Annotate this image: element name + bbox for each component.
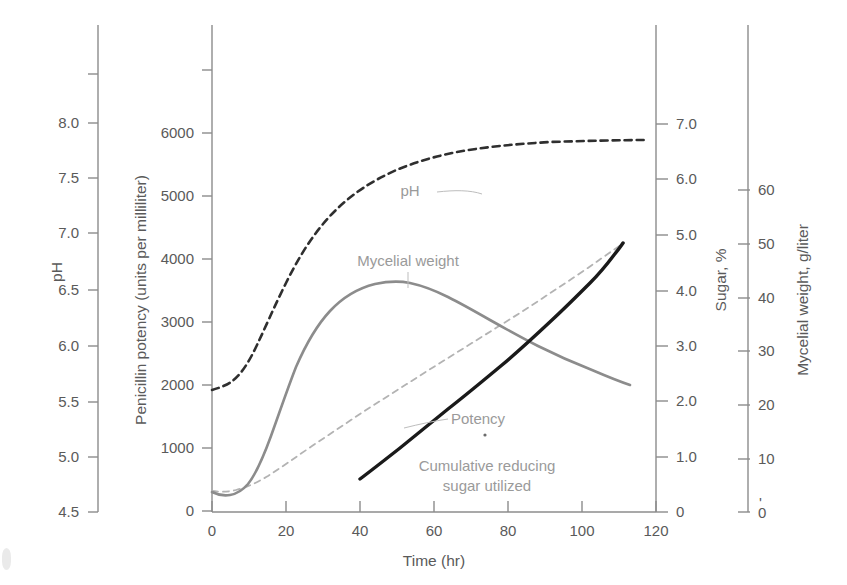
ph-axis-title: pH: [48, 262, 65, 282]
potency-axis: 6000 5000 4000 3000 2000 1000 0 Penicill…: [132, 25, 212, 519]
ph-curve-label: pH: [400, 182, 419, 199]
sugar-curve-label-line1: Cumulative reducing: [419, 457, 556, 474]
ph-axis: 8.0 7.5 7.0 6.5 6.0 5.5 5.0 4.5 pH: [48, 25, 98, 520]
ph-label-7.0: 7.0: [58, 224, 79, 241]
potency-curve: [360, 243, 623, 479]
x-label-60: 60: [426, 522, 443, 539]
x-label-100: 100: [569, 522, 594, 539]
x-axis-title: Time (hr): [403, 552, 465, 569]
ph-label-6.0: 6.0: [58, 337, 79, 354]
mycelial-label-40: 40: [758, 289, 775, 306]
mycelial-label-50: 50: [758, 235, 775, 252]
sugar-curve: [212, 243, 624, 492]
sugar-curve-label-line2: sugar utilized: [443, 477, 531, 494]
ph-label-4.5: 4.5: [58, 503, 79, 520]
mycelial-curve-label: Mycelial weight: [357, 252, 460, 269]
sugar-label-3.0: 3.0: [676, 337, 697, 354]
potency-label-dot: [483, 433, 486, 436]
mycelial-label-20: 20: [758, 396, 775, 413]
potency-label-2000: 2000: [161, 376, 194, 393]
ph-label-5.0: 5.0: [58, 448, 79, 465]
ph-label-7.5: 7.5: [58, 169, 79, 186]
sugar-label-6.0: 6.0: [676, 170, 697, 187]
potency-label-1000: 1000: [161, 439, 194, 456]
potency-label-3000: 3000: [161, 313, 194, 330]
x-label-40: 40: [352, 522, 369, 539]
ph-label-8.0: 8.0: [58, 114, 79, 131]
sugar-label-5.0: 5.0: [676, 226, 697, 243]
ph-label-5.5: 5.5: [58, 393, 79, 410]
sugar-label-4.0: 4.0: [676, 282, 697, 299]
mycelial-label-0-artifact: ': [759, 494, 762, 511]
potency-label-6000: 6000: [161, 124, 194, 141]
mycelial-label-10: 10: [758, 450, 775, 467]
sugar-label-2.0: 2.0: [676, 392, 697, 409]
mycelial-label-60: 60: [758, 181, 775, 198]
chart-svg: 8.0 7.5 7.0 6.5 6.0 5.5 5.0 4.5 pH 6000 …: [0, 0, 847, 585]
potency-label-0: 0: [186, 502, 194, 519]
sugar-axis: 7.0 6.0 5.0 4.0 3.0 2.0 1.0 0 Sugar, %: [656, 25, 729, 520]
sugar-label-7.0: 7.0: [676, 115, 697, 132]
x-label-80: 80: [500, 522, 517, 539]
penicillin-fermentation-chart: 8.0 7.5 7.0 6.5 6.0 5.5 5.0 4.5 pH 6000 …: [0, 0, 847, 585]
x-label-120: 120: [643, 522, 668, 539]
x-label-20: 20: [278, 522, 295, 539]
mycelial-label-30: 30: [758, 342, 775, 359]
sugar-label-1.0: 1.0: [676, 448, 697, 465]
potency-curve-label: Potency: [451, 410, 506, 427]
potency-label-5000: 5000: [161, 187, 194, 204]
sugar-axis-title: Sugar, %: [712, 248, 729, 311]
mycelial-axis-title: Mycelial weight, g/liter: [794, 224, 811, 376]
ph-label-6.5: 6.5: [58, 281, 79, 298]
x-label-0: 0: [208, 522, 216, 539]
page-edge-artifact: [2, 548, 11, 570]
sugar-label-0: 0: [676, 503, 684, 520]
x-axis: 0 20 40 60 80 100 120 Time (hr): [208, 501, 669, 569]
curve-annotations: pH Mycelial weight Potency Cumulative re…: [357, 182, 555, 494]
potency-label-4000: 4000: [161, 250, 194, 267]
potency-axis-title: Penicillin potency (units per milliliter…: [132, 175, 149, 425]
ph-leader-line: [437, 191, 482, 194]
mycelial-axis: 60 50 40 30 20 10 0 ' Mycelial weight, g…: [738, 25, 811, 521]
